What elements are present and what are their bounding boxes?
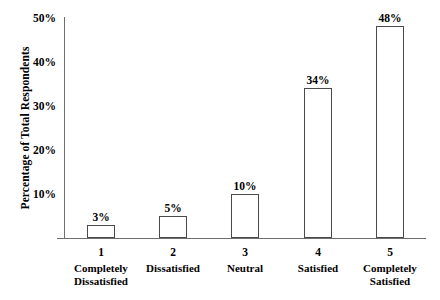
y-axis-tick-label: 20% (0, 144, 56, 156)
bar-group: 3% 1 Completely Dissatisfied (64, 0, 138, 300)
bar-value-label: 3% (64, 211, 138, 223)
bar-rect[interactable] (231, 194, 259, 238)
bar-group: 10% 3 Neutral (208, 0, 282, 300)
bar-value-label: 5% (136, 202, 210, 214)
x-axis-category-number: 1 (64, 246, 138, 259)
x-axis-category-label: Completely Dissatisfied (61, 262, 141, 288)
y-axis-tick-label: 30% (0, 100, 56, 112)
bar-group: 34% 4 Satisfied (281, 0, 355, 300)
y-axis-title: Percentage of Total Respondents (16, 8, 34, 248)
x-axis-category-number: 2 (136, 246, 210, 259)
bar-rect[interactable] (376, 26, 404, 238)
bar-value-label: 34% (281, 74, 355, 86)
x-axis-category-label: Neutral (205, 262, 285, 275)
y-axis-tick-label: 50% (0, 12, 56, 24)
bar-rect[interactable] (159, 216, 187, 238)
x-axis-category-number: 5 (353, 246, 427, 259)
bar-group: 48% 5 Completely Satisfied (353, 0, 427, 300)
x-axis-category-number: 4 (281, 246, 355, 259)
x-axis-category-label: Dissatisfied (133, 262, 213, 275)
x-axis-category-label: Completely Satisfied (350, 262, 430, 288)
bar-rect[interactable] (304, 88, 332, 238)
bar-group: 5% 2 Dissatisfied (136, 0, 210, 300)
bar-value-label: 48% (353, 12, 427, 24)
bar-chart: Percentage of Total Respondents 50% 40% … (0, 0, 440, 300)
y-axis-tick-label: 40% (0, 56, 56, 68)
x-axis-category-number: 3 (208, 246, 282, 259)
x-axis-category-label: Satisfied (278, 262, 358, 275)
bar-rect[interactable] (87, 225, 115, 238)
y-axis-tick-label: 10% (0, 188, 56, 200)
bar-value-label: 10% (208, 180, 282, 192)
